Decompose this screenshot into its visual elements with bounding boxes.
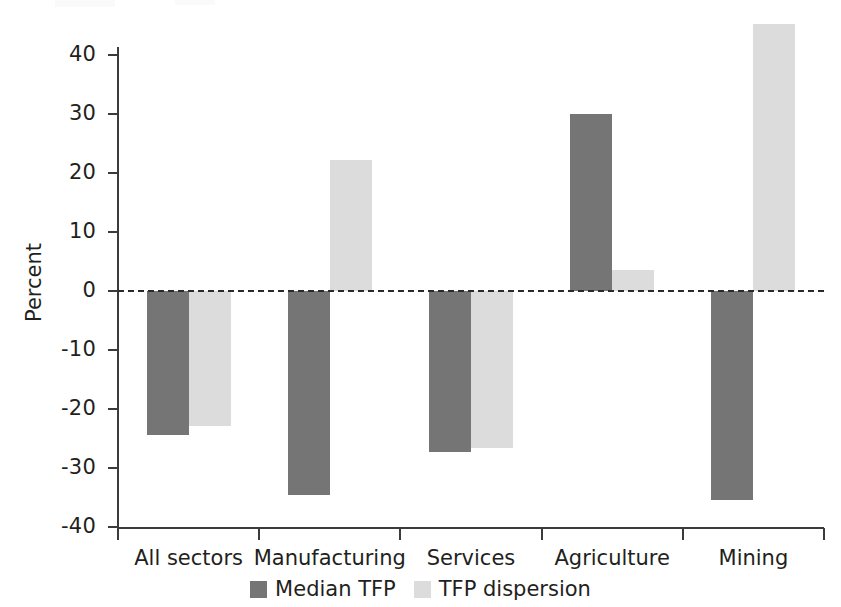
scan-artifact — [55, 0, 115, 7]
y-axis-tick-label: -30 — [18, 457, 96, 478]
y-axis-tick-label: -20 — [18, 398, 96, 419]
y-axis-tick-label: -10 — [18, 339, 96, 360]
bar-tfp-dispersion — [612, 270, 654, 291]
legend-swatch-icon — [250, 581, 267, 598]
x-axis-tick — [399, 528, 401, 540]
legend-swatch-icon — [414, 581, 431, 598]
y-axis-tick — [108, 113, 118, 115]
y-axis-tick — [108, 290, 118, 292]
y-axis-tick — [108, 231, 118, 233]
legend-label: TFP dispersion — [439, 578, 591, 600]
legend-item-tfp-dispersion: TFP dispersion — [414, 578, 591, 600]
bar-tfp-dispersion — [330, 160, 372, 291]
y-axis-tick-label: 10 — [18, 221, 96, 242]
x-axis-tick — [541, 528, 543, 540]
y-axis-tick — [108, 467, 118, 469]
x-axis-tick — [117, 528, 119, 540]
bar-tfp-dispersion — [753, 24, 795, 291]
x-axis-tick — [823, 528, 825, 540]
y-axis-tick-label: 30 — [18, 103, 96, 124]
x-axis-tick — [258, 528, 260, 540]
bar-median-tfp — [570, 114, 612, 291]
y-axis-tick-label: -40 — [18, 516, 96, 537]
bar-median-tfp — [429, 291, 471, 452]
x-axis-category-label: Mining — [663, 546, 841, 570]
bar-tfp-dispersion — [471, 291, 513, 448]
legend-label: Median TFP — [275, 578, 396, 600]
chart-legend: Median TFP TFP dispersion — [0, 578, 841, 600]
bar-median-tfp — [147, 291, 189, 435]
y-axis-tick — [108, 54, 118, 56]
bar-chart: Percent 403020100-10-20-30-40 All sector… — [0, 0, 841, 607]
y-axis-tick-label: 20 — [18, 162, 96, 183]
y-axis-tick — [108, 408, 118, 410]
x-axis-line — [117, 527, 824, 529]
y-axis-tick — [108, 349, 118, 351]
x-axis-tick — [682, 528, 684, 540]
legend-item-median-tfp: Median TFP — [250, 578, 396, 600]
y-axis-tick-label: 0 — [18, 280, 96, 301]
bar-tfp-dispersion — [189, 291, 231, 426]
bar-median-tfp — [288, 291, 330, 495]
scan-artifact — [175, 0, 215, 5]
y-axis-tick — [108, 172, 118, 174]
y-axis-tick-label: 40 — [18, 44, 96, 65]
y-axis-line — [117, 47, 119, 529]
bar-median-tfp — [711, 291, 753, 500]
zero-reference-line — [118, 290, 824, 292]
